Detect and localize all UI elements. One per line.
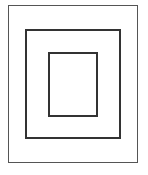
inner-rectangle — [48, 52, 98, 117]
